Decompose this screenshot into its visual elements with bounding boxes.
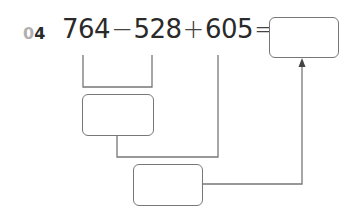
step1-result-box[interactable] bbox=[82, 94, 154, 136]
bracket-line bbox=[83, 55, 152, 87]
answer-connector-line bbox=[202, 66, 302, 184]
step2-result-box[interactable] bbox=[133, 164, 203, 206]
answer-box[interactable] bbox=[269, 17, 339, 58]
arrow-up-icon bbox=[299, 58, 306, 67]
